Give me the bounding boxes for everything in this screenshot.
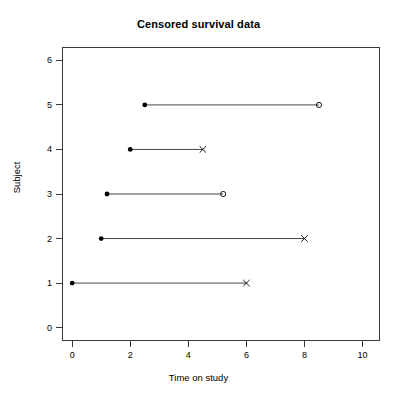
- y-tick-mark: [56, 194, 62, 195]
- entry-marker-filled-circle-icon: [99, 236, 104, 241]
- x-tick-mark: [246, 341, 247, 347]
- y-tick-label: 1: [22, 278, 52, 288]
- y-tick-mark: [56, 238, 62, 239]
- x-tick-mark: [304, 341, 305, 347]
- entry-marker-filled-circle-icon: [142, 103, 147, 108]
- x-tick-mark: [130, 341, 131, 347]
- entry-marker-filled-circle-icon: [128, 147, 133, 152]
- y-tick-label: 4: [22, 144, 52, 154]
- y-tick-mark: [56, 60, 62, 61]
- x-tick-label: 10: [358, 350, 368, 360]
- plot-area: [62, 47, 380, 341]
- x-tick-label: 2: [128, 350, 133, 360]
- x-tick-mark: [362, 341, 363, 347]
- series-layer: [70, 102, 322, 286]
- y-tick-mark: [56, 104, 62, 105]
- y-tick-label: 5: [22, 100, 52, 110]
- chart-title: Censored survival data: [0, 18, 397, 30]
- x-tick-label: 8: [302, 350, 307, 360]
- y-tick-mark: [56, 283, 62, 284]
- entry-marker-filled-circle-icon: [70, 281, 75, 286]
- entry-marker-filled-circle-icon: [105, 192, 110, 197]
- y-tick-label: 0: [22, 323, 52, 333]
- y-axis-title: Subject: [11, 148, 22, 208]
- y-tick-label: 6: [22, 55, 52, 65]
- y-tick-mark: [56, 149, 62, 150]
- x-tick-label: 4: [186, 350, 191, 360]
- x-tick-mark: [188, 341, 189, 347]
- x-axis-title: Time on study: [0, 372, 397, 383]
- plot-canvas: [62, 47, 380, 341]
- x-tick-label: 0: [70, 350, 75, 360]
- y-tick-mark: [56, 327, 62, 328]
- y-tick-label: 2: [22, 234, 52, 244]
- x-tick-label: 6: [244, 350, 249, 360]
- y-tick-label: 3: [22, 189, 52, 199]
- x-tick-mark: [72, 341, 73, 347]
- chart-figure: Censored survival data Subject Time on s…: [0, 0, 397, 395]
